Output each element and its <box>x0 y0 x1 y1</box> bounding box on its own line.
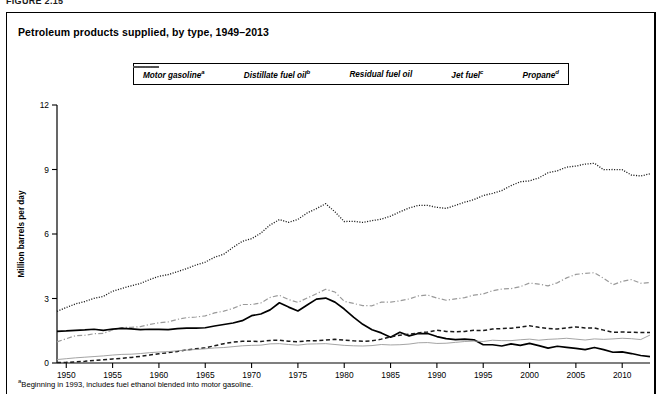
series-line-motor-gasoline <box>57 163 650 311</box>
x-axis-tick-label: 1995 <box>474 370 493 380</box>
x-axis-tick-label: 2005 <box>567 370 586 380</box>
x-axis-tick-label: 1980 <box>335 370 354 380</box>
x-axis-tick-label: 1985 <box>381 370 400 380</box>
x-axis-tick-label: 1990 <box>428 370 447 380</box>
footnote-text: Beginning in 1993, includes fuel ethanol… <box>21 380 253 389</box>
x-axis-tick-label: 2000 <box>520 370 539 380</box>
y-axis-tick-label: 3 <box>44 294 49 304</box>
y-axis-tick-label: 9 <box>44 165 49 175</box>
y-axis-title: Million barrels per day <box>17 190 26 277</box>
series-line-residual-fuel-oil <box>57 298 650 356</box>
y-axis-tick-label: 0 <box>44 358 49 368</box>
footnote: aBeginning in 1993, includes fuel ethano… <box>18 378 253 389</box>
series-line-distillate-fuel-oil <box>57 273 650 342</box>
y-axis-tick-label: 12 <box>40 100 50 110</box>
figure-container: FIGURE 2.15 Petroleum products supplied,… <box>0 0 664 398</box>
y-axis-tick-label: 6 <box>44 229 49 239</box>
x-axis-tick-label: 1975 <box>289 370 308 380</box>
x-axis-tick-label: 2010 <box>613 370 632 380</box>
series-line-jet-fuel <box>57 326 650 363</box>
chart-plot-area: 0369121950195519601965197019751980198519… <box>0 0 664 398</box>
